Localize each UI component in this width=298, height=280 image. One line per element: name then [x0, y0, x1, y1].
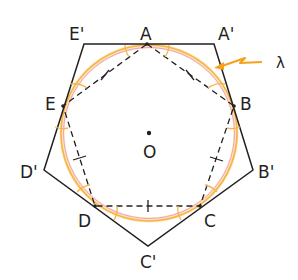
label-lambda: λ	[276, 54, 285, 72]
label-D-prime: D'	[20, 162, 38, 182]
center-point	[147, 131, 151, 135]
label-C-prime: C'	[140, 252, 157, 272]
label-E: E	[45, 94, 56, 114]
lambda-pointer-icon	[222, 58, 262, 66]
lambda-arrowhead-icon	[214, 62, 224, 70]
label-B-prime: B'	[258, 162, 274, 182]
pentagon-diagram: A A' E' B E B' D' C D C' O λ	[0, 0, 298, 280]
label-E-prime: E'	[69, 24, 84, 44]
label-A: A	[140, 24, 152, 44]
label-O: O	[143, 142, 156, 162]
label-A-prime: A'	[218, 24, 234, 44]
equal-side-ticks	[73, 70, 223, 212]
label-D: D	[78, 211, 91, 231]
label-C: C	[204, 211, 216, 231]
label-B: B	[240, 94, 252, 114]
